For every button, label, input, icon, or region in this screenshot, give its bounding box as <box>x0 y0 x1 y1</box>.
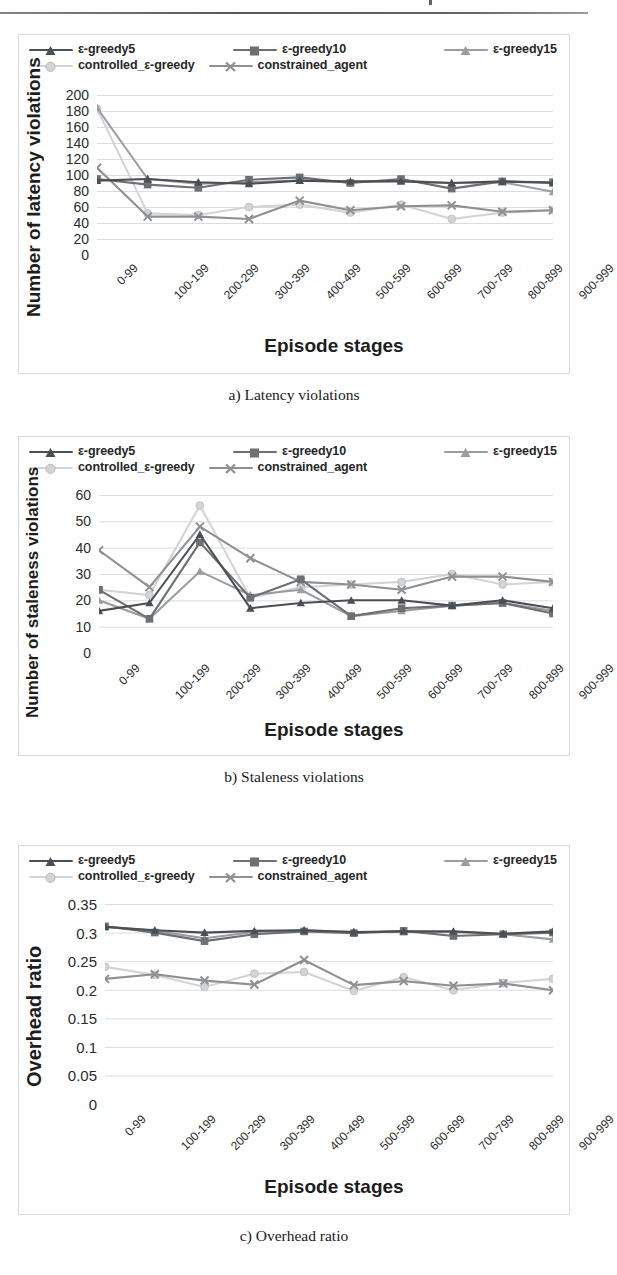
y-axis-title: Number of latency violations <box>23 87 45 317</box>
legend-item-egreedy15[interactable]: ε-greedy15 <box>444 854 557 867</box>
figure-caption-a: a) Latency violations <box>0 386 588 404</box>
legend-b: ε-greedy5 ε-greedy10 ε-greedy15 controll… <box>19 441 569 474</box>
y-axis-tick: 0 <box>89 1097 97 1112</box>
x-axis-tick: 400-499 <box>327 1112 368 1153</box>
y-axis-tick: 100 <box>66 168 89 182</box>
legend-label: constrained_agent <box>258 59 367 72</box>
legend-item-constrained-agent[interactable]: constrained_agent <box>209 59 367 72</box>
y-axis-tick: 0.1 <box>76 1039 97 1054</box>
x-axis-tick: 0-99 <box>116 661 143 688</box>
figure-staleness-violations: ε-greedy5 ε-greedy10 ε-greedy15 controll… <box>0 436 588 806</box>
legend-label: constrained_agent <box>258 461 367 474</box>
legend-label: ε-greedy10 <box>282 854 346 867</box>
plot-area-a <box>97 95 553 255</box>
y-axis-tick: 180 <box>66 104 89 118</box>
legend-item-controlled-egreedy[interactable]: controlled_ε-greedy <box>29 870 195 883</box>
x-axis-tick: 700-799 <box>476 1112 517 1153</box>
x-axis-tick: 600-699 <box>427 1112 468 1153</box>
y-axis-title: Overhead ratio <box>23 926 46 1106</box>
legend-item-egreedy5[interactable]: ε-greedy5 <box>29 445 135 458</box>
y-axis-tick: 0.05 <box>68 1068 97 1083</box>
y-axis-tick: 0.2 <box>76 982 97 997</box>
legend-item-egreedy5[interactable]: ε-greedy5 <box>29 43 135 56</box>
x-axis-tick: 600-699 <box>424 261 465 302</box>
legend-item-constrained-agent[interactable]: constrained_agent <box>209 461 367 474</box>
legend-item-controlled-egreedy[interactable]: controlled_ε-greedy <box>29 59 195 72</box>
y-axis-title: Number of staleness violations <box>23 483 43 718</box>
x-axis-tick: 900-999 <box>576 261 617 302</box>
legend-marker-triangle-icon <box>444 855 488 867</box>
plot-area-b <box>99 495 553 653</box>
chart-canvas <box>97 95 553 255</box>
legend-marker-triangle-icon <box>29 855 73 867</box>
y-axis-tick: 140 <box>66 136 89 150</box>
legend-marker-triangle-icon <box>444 44 488 56</box>
legend-label: ε-greedy5 <box>78 43 135 56</box>
legend-marker-x-icon <box>209 462 253 474</box>
legend-marker-triangle-icon <box>29 44 73 56</box>
series-line <box>97 109 553 219</box>
legend-label: ε-greedy15 <box>493 445 557 458</box>
scan-speck <box>429 0 432 5</box>
x-axis-tick: 600-699 <box>425 661 466 702</box>
x-axis-tick: 800-899 <box>525 261 566 302</box>
legend-marker-square-icon <box>233 855 277 867</box>
legend-label: ε-greedy5 <box>78 445 135 458</box>
x-axis-tick: 700-799 <box>475 661 516 702</box>
x-axis-tick: 900-999 <box>576 1112 617 1153</box>
x-axis-tick: 800-899 <box>525 661 566 702</box>
legend-label: constrained_agent <box>258 870 367 883</box>
x-axis-tick: 400-499 <box>324 661 365 702</box>
legend-marker-circle-icon <box>29 871 73 883</box>
figure-caption-b: b) Staleness violations <box>0 768 588 786</box>
legend-item-egreedy10[interactable]: ε-greedy10 <box>233 854 346 867</box>
legend-label: ε-greedy10 <box>282 445 346 458</box>
figure-caption-c: c) Overhead ratio <box>0 1227 588 1245</box>
y-axis-tick: 200 <box>66 88 89 102</box>
y-axis-tick: 30 <box>75 567 91 581</box>
legend-item-egreedy10[interactable]: ε-greedy10 <box>233 445 346 458</box>
legend-label: ε-greedy5 <box>78 854 135 867</box>
x-axis-tick: 800-899 <box>526 1112 567 1153</box>
figure-overhead-ratio: ε-greedy5 ε-greedy10 ε-greedy15 controll… <box>0 845 588 1275</box>
y-axis-tick: 60 <box>73 200 89 214</box>
chart-canvas <box>99 495 553 653</box>
x-axis-tick: 200-299 <box>223 661 264 702</box>
x-axis-tick: 400-499 <box>323 261 364 302</box>
x-axis-tick: 100-199 <box>178 1112 219 1153</box>
legend-label: ε-greedy10 <box>282 43 346 56</box>
y-axis-tick: 0 <box>83 646 91 660</box>
x-axis-tick: 700-799 <box>475 261 516 302</box>
legend-c: ε-greedy5 ε-greedy10 ε-greedy15 controll… <box>19 850 569 883</box>
legend-item-egreedy15[interactable]: ε-greedy15 <box>444 445 557 458</box>
y-axis-tick: 40 <box>73 216 89 230</box>
legend-a: ε-greedy5 ε-greedy10 ε-greedy15 controll… <box>19 39 569 72</box>
y-axis-tick: 0 <box>81 248 89 262</box>
legend-marker-triangle-icon <box>29 446 73 458</box>
x-axis-tick: 200-299 <box>221 261 262 302</box>
figure-latency-violations: ε-greedy5 ε-greedy10 ε-greedy15 controll… <box>0 34 588 429</box>
x-axis-tick: 300-399 <box>273 661 314 702</box>
legend-item-controlled-egreedy[interactable]: controlled_ε-greedy <box>29 461 195 474</box>
x-axis-tick: 100-199 <box>172 661 213 702</box>
x-axis-tick: 300-399 <box>277 1112 318 1153</box>
y-axis-tick: 120 <box>66 152 89 166</box>
legend-item-constrained-agent[interactable]: constrained_agent <box>209 870 367 883</box>
legend-label: controlled_ε-greedy <box>78 461 195 474</box>
y-axis-tick: 40 <box>75 541 91 555</box>
x-axis-title: Episode stages <box>19 335 609 357</box>
y-axis-tick: 0.3 <box>76 925 97 940</box>
legend-label: controlled_ε-greedy <box>78 870 195 883</box>
x-axis-tick: 200-299 <box>227 1112 268 1153</box>
legend-item-egreedy5[interactable]: ε-greedy5 <box>29 854 135 867</box>
y-axis-tick: 50 <box>75 514 91 528</box>
y-axis-tick: 0.35 <box>68 897 97 912</box>
x-axis-tick: 0-99 <box>114 261 141 288</box>
legend-marker-x-icon <box>209 871 253 883</box>
plot-area-c <box>105 904 553 1104</box>
legend-label: ε-greedy15 <box>493 43 557 56</box>
legend-item-egreedy10[interactable]: ε-greedy10 <box>233 43 346 56</box>
x-axis-tick: 300-399 <box>272 261 313 302</box>
legend-item-egreedy15[interactable]: ε-greedy15 <box>444 43 557 56</box>
